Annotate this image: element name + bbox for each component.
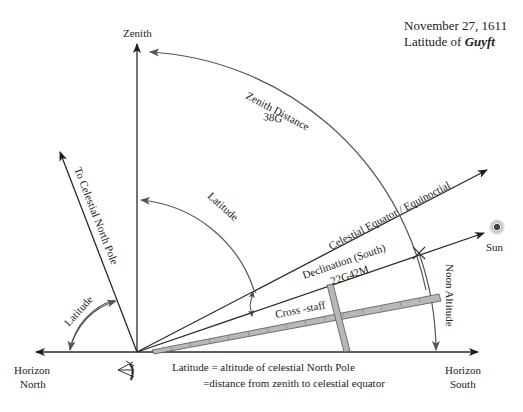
header: November 27, 1611 Latitude of Guyft bbox=[404, 18, 507, 49]
latitude-upper-label: Latitude bbox=[206, 190, 241, 224]
cross-staff bbox=[152, 284, 441, 354]
horizon-south-label-1: Horizon bbox=[445, 364, 482, 376]
sun-line bbox=[137, 233, 484, 352]
zenith-distance-value: 38G bbox=[263, 110, 283, 125]
sun-icon bbox=[489, 219, 505, 235]
latitude-of-label: Latitude of Guyft bbox=[404, 34, 495, 49]
zenith-distance-arc bbox=[150, 52, 426, 290]
horizon-north-label-1: Horizon bbox=[14, 364, 51, 376]
date-label: November 27, 1611 bbox=[404, 18, 507, 33]
celestial-latitude-diagram: November 27, 1611 Latitude of Guyft bbox=[0, 0, 523, 412]
horizon-south-label-2: South bbox=[450, 378, 476, 390]
noon-altitude-label: Noon Altitude bbox=[444, 264, 456, 327]
zenith-label: Zenith bbox=[123, 27, 152, 39]
celestial-north-pole-label: To Celestial North Pole bbox=[72, 165, 121, 266]
observer-eye-icon bbox=[118, 361, 134, 380]
caption-line-1: Latitude = altitude of celestial North P… bbox=[172, 361, 355, 373]
sun-label: Sun bbox=[486, 241, 504, 253]
horizon-north-label-2: North bbox=[20, 378, 46, 390]
celestial-equator-label: Celestial Equator / Equinoctial bbox=[326, 179, 452, 252]
crossing-marker-icon bbox=[413, 247, 425, 259]
declination-arrow-up bbox=[250, 292, 253, 305]
zenith-distance-label: Zenith Distance bbox=[244, 89, 311, 132]
latitude-lower-label: Latitude bbox=[62, 293, 96, 328]
declination-arrow-down bbox=[250, 305, 252, 316]
caption-line-2: =distance from zenith to celestial equat… bbox=[203, 377, 385, 389]
